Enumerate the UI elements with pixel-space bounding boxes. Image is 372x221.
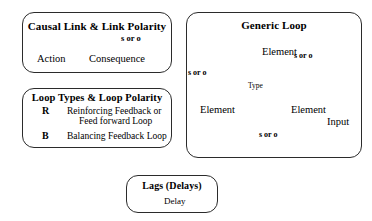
generic-polarity-top-right: s or o	[294, 51, 313, 60]
generic-loop-panel-title: Generic Loop	[187, 19, 361, 31]
balancing-label-line1: Balancing Feedback Loop	[67, 131, 167, 141]
generic-node-center: Type	[248, 81, 263, 90]
loop-types-panel-title: Loop Types & Loop Polarity	[23, 92, 171, 103]
generic-node-top: Element	[262, 46, 297, 57]
causal-link-panel: Causal Link & Link Polarity Action Conse…	[22, 12, 172, 73]
causal-link-target-label: Consequence	[89, 53, 145, 64]
balancing-badge-letter: B	[42, 130, 49, 141]
reinforcing-label-line1: Reinforcing Feedback or	[67, 106, 161, 116]
reinforcing-badge-letter: R	[42, 105, 49, 116]
reinforcing-label-line2: Feed forward Loop	[79, 116, 152, 126]
diagram-canvas: Causal Link & Link Polarity Action Conse…	[0, 0, 372, 221]
causal-link-panel-title: Causal Link & Link Polarity	[23, 20, 171, 32]
causal-link-polarity-label: s or o	[121, 33, 141, 43]
generic-polarity-bottom: s or o	[259, 130, 278, 139]
lags-delay-label: Delay	[164, 196, 186, 206]
generic-node-input: Input	[327, 116, 349, 127]
lags-panel: Lags (Delays) Delay	[126, 175, 218, 213]
causal-link-source-label: Action	[37, 53, 66, 64]
generic-node-right: Element	[291, 104, 326, 115]
generic-polarity-top-left: s or o	[188, 68, 207, 77]
generic-node-left: Element	[200, 104, 235, 115]
generic-loop-panel: Generic Loop Element Element Element Typ…	[186, 12, 362, 158]
lags-panel-title: Lags (Delays)	[127, 180, 217, 191]
loop-types-panel: Loop Types & Loop Polarity R Reinforcing…	[22, 88, 172, 148]
